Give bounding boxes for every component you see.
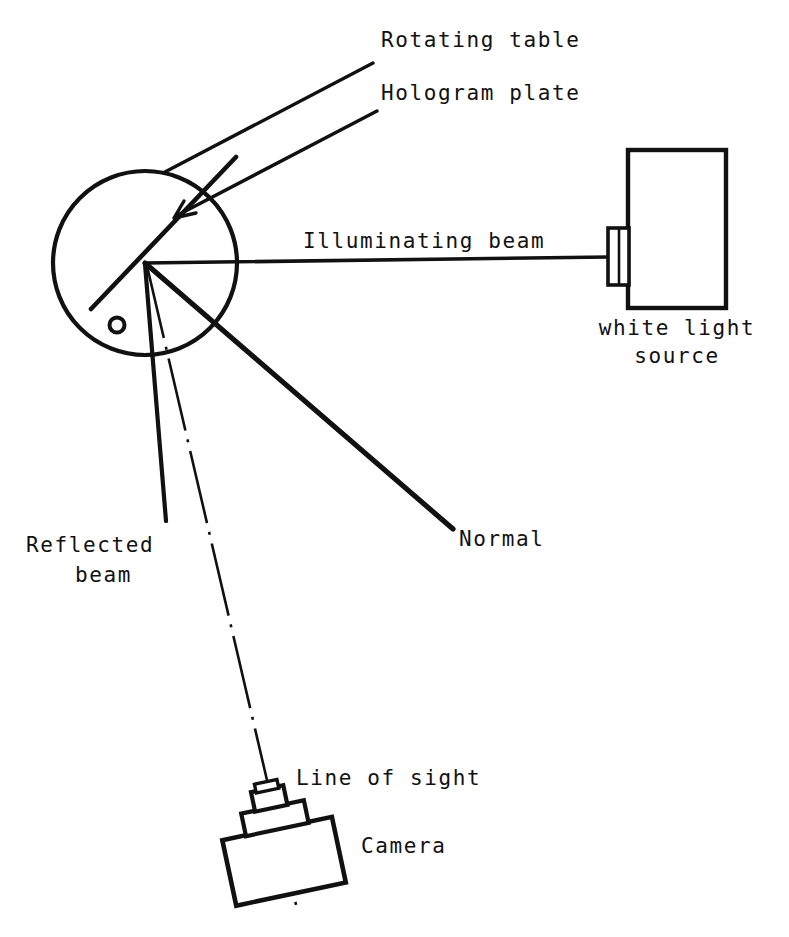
label-white-light-source-line2: source xyxy=(592,343,762,371)
label-hologram-plate: Hologram plate xyxy=(381,80,580,108)
hologram-plate-line xyxy=(91,157,236,309)
label-illuminating-beam: Illuminating beam xyxy=(303,228,545,256)
hologram-plate-leader-line xyxy=(176,111,377,216)
label-rotating-table: Rotating table xyxy=(381,27,580,55)
rotating-table-leader-line xyxy=(163,63,373,173)
illuminating-beam-ray xyxy=(145,257,609,263)
diagram-canvas: Rotating table Hologram plate Illuminati… xyxy=(0,0,789,937)
label-line-of-sight: Line of sight xyxy=(296,765,481,793)
label-white-light-source-line1: white light xyxy=(592,315,762,343)
white-light-source-housing xyxy=(628,150,726,308)
normal-ray xyxy=(145,263,453,529)
label-reflected-beam-line2: beam xyxy=(75,562,132,590)
diagram-vector-layer xyxy=(0,0,789,937)
pivot-marker-icon xyxy=(110,318,125,333)
label-reflected-beam-line1: Reflected xyxy=(26,532,154,560)
label-camera: Camera xyxy=(361,833,446,861)
label-normal: Normal xyxy=(459,526,544,554)
